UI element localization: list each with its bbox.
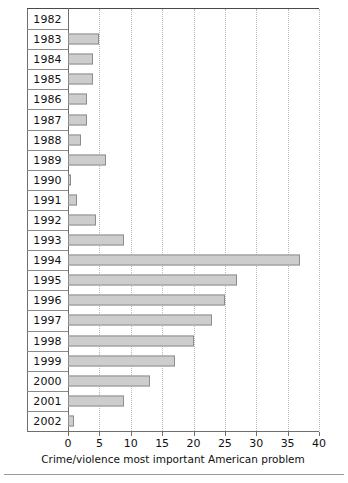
bar [68,154,106,165]
bar-row: 1996 [27,290,319,310]
bar-row: 1984 [27,49,319,69]
bar-row: 1989 [27,150,319,170]
bar-track [68,170,319,190]
bar-row: 1990 [27,170,319,190]
bar-rows: 1982198319841985198619871988198919901991… [27,9,319,431]
tick-25 [225,432,226,436]
tick-35 [288,432,289,436]
year-label: 1995 [33,275,61,286]
bar-track [68,49,319,69]
tick-label-30: 30 [249,437,263,451]
bar-row: 1995 [27,270,319,290]
bar-row: 1987 [27,109,319,129]
bar-row: 2001 [27,391,319,411]
bar [68,295,225,306]
year-label-cell: 1995 [27,270,68,290]
tick-label-15: 15 [155,437,169,451]
year-label-cell: 1999 [27,351,68,371]
bar-row: 1999 [27,351,319,371]
bar [68,315,212,326]
chart-plot-area: 1982198319841985198619871988198919901991… [27,8,319,432]
bar-row: 1988 [27,130,319,150]
year-label: 1992 [33,215,61,226]
year-label: 1987 [33,115,61,126]
gridline-40 [319,9,320,431]
year-label-cell: 1983 [27,29,68,49]
year-label: 1998 [33,336,61,347]
bar [68,34,99,45]
year-label: 1994 [33,255,61,266]
bar [68,355,175,366]
bar-track [68,411,319,431]
year-label-cell: 2002 [27,411,68,431]
year-label: 1991 [33,195,61,206]
bar [68,214,96,225]
bar-track [68,270,319,290]
x-axis-title: Crime/violence most important American p… [27,453,319,465]
bar-track [68,130,319,150]
year-label: 1986 [33,94,61,105]
tick-label-25: 25 [218,437,232,451]
bar-row: 2000 [27,371,319,391]
bar [68,94,87,105]
year-label: 1985 [33,74,61,85]
bar-track [68,9,319,29]
bar-track [68,250,319,270]
year-label: 1984 [33,54,61,65]
year-label-cell: 1991 [27,190,68,210]
bar [68,275,237,286]
tick-15 [162,432,163,436]
year-label-cell: 2001 [27,391,68,411]
bar-row: 1982 [27,9,319,29]
bar-row: 1983 [27,29,319,49]
bar-row: 1986 [27,89,319,109]
bar-track [68,391,319,411]
year-label: 1996 [33,295,61,306]
tick-30 [256,432,257,436]
bar [68,74,93,85]
bar-track [68,150,319,170]
year-label-cell: 1989 [27,150,68,170]
x-axis-tick-labels: 0510152025303540 [27,437,319,453]
year-label-cell: 1997 [27,310,68,330]
year-label: 1997 [33,315,61,326]
bar-track [68,351,319,371]
bar-row: 1997 [27,310,319,330]
year-label: 1999 [33,356,61,367]
bar-track [68,371,319,391]
bar-track [68,331,319,351]
bar [68,415,74,426]
year-label-cell: 1986 [27,89,68,109]
year-label-cell: 1990 [27,170,68,190]
bar-row: 1998 [27,331,319,351]
tick-label-40: 40 [312,437,326,451]
year-label: 1990 [33,175,61,186]
year-label: 1993 [33,235,61,246]
year-label-cell: 1988 [27,130,68,150]
bar-track [68,230,319,250]
bar-row: 1992 [27,210,319,230]
year-label: 1988 [33,135,61,146]
year-label-cell: 1982 [27,9,68,29]
bar-track [68,109,319,129]
bar [68,375,150,386]
tick-label-5: 5 [96,437,103,451]
tick-5 [99,432,100,436]
bar-track [68,210,319,230]
year-label: 1983 [33,34,61,45]
figure: 1982198319841985198619871988198919901991… [0,0,348,483]
bar [68,174,71,185]
tick-10 [131,432,132,436]
year-label-cell: 1994 [27,250,68,270]
bar-row: 1993 [27,230,319,250]
year-label: 1989 [33,155,61,166]
bar-track [68,69,319,89]
bar-track [68,290,319,310]
tick-20 [194,432,195,436]
year-label-cell: 1992 [27,210,68,230]
year-label-cell: 1985 [27,69,68,89]
year-label: 2002 [33,416,61,427]
tick-label-35: 35 [281,437,295,451]
bar-track [68,29,319,49]
year-label-cell: 1998 [27,331,68,351]
